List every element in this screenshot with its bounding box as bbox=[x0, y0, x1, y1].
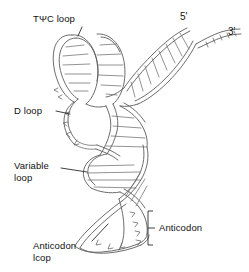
leader-variable bbox=[61, 168, 87, 172]
leader-tpsic bbox=[78, 27, 82, 36]
label-three-prime-end: 3' bbox=[228, 26, 235, 37]
label-tpsic-loop: TΨC loop bbox=[33, 13, 75, 24]
tpsic-stem bbox=[86, 34, 125, 107]
label-anticodon: Anticodon bbox=[159, 222, 202, 233]
leader-lines bbox=[56, 27, 108, 241]
acceptor-stem bbox=[106, 28, 196, 106]
trna-drawing bbox=[0, 0, 249, 272]
label-variable-loop-line1: Variable bbox=[14, 160, 49, 171]
trna-structure-figure: TΨC loop D loop Variable loop Anticodon … bbox=[0, 0, 249, 272]
label-anticodon-loop-line1: Anticodon bbox=[33, 240, 76, 251]
anticodon-loop bbox=[75, 199, 149, 253]
anticodon-bracket bbox=[148, 211, 155, 245]
label-five-prime-end: 5' bbox=[180, 11, 187, 22]
leader-anticodon-loop bbox=[92, 224, 108, 241]
tpsic-loop bbox=[53, 35, 98, 104]
label-anticodon-loop-line2: lcop bbox=[33, 252, 51, 263]
label-d-loop: D loop bbox=[14, 105, 42, 116]
label-variable-loop-line2: loop bbox=[14, 172, 32, 183]
core-strands bbox=[96, 103, 147, 160]
